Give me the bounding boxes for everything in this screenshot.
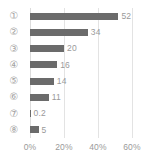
bar-value-label: 52 [121, 12, 131, 21]
y-axis-label: ④ [0, 57, 28, 73]
x-axis-tick-label: 0% [24, 143, 37, 152]
bar-row: 14 [30, 73, 132, 89]
bar [30, 45, 64, 52]
bar-value-label: 0.2 [34, 109, 46, 118]
bar [30, 29, 88, 36]
bar-row: 52 [30, 8, 132, 24]
bar-row: 20 [30, 41, 132, 57]
bar-row: 16 [30, 57, 132, 73]
y-axis-label: ⑤ [0, 73, 28, 89]
bar-value-label: 11 [52, 93, 61, 102]
bar-value-label: 20 [67, 44, 77, 53]
bar [30, 13, 118, 20]
bar-value-label: 5 [42, 126, 47, 135]
bar [30, 94, 49, 101]
horizontal-bar-chart: ①②③④⑤⑥⑦⑧ 5234201614110.25 0%20%40%60% [0, 0, 146, 164]
bar [30, 61, 57, 68]
x-axis-tick-label: 40% [89, 143, 107, 152]
bar-row: 34 [30, 24, 132, 40]
bar [30, 126, 39, 133]
bar-rows: 5234201614110.25 [30, 8, 132, 138]
bar [30, 110, 31, 117]
y-axis-label: ① [0, 8, 28, 24]
bar-value-label: 34 [91, 28, 101, 37]
bar-value-label: 14 [57, 77, 67, 86]
y-axis-label: ⑥ [0, 89, 28, 105]
gridline-60% [132, 8, 133, 138]
bar-row: 0.2 [30, 106, 132, 122]
y-axis-label: ⑧ [0, 122, 28, 138]
y-axis-labels: ①②③④⑤⑥⑦⑧ [0, 8, 28, 138]
bar [30, 78, 54, 85]
y-axis-label: ② [0, 24, 28, 40]
y-axis-label: ⑦ [0, 106, 28, 122]
x-axis-ticks: 0%20%40%60% [30, 143, 132, 157]
x-axis-tick-label: 20% [55, 143, 73, 152]
x-axis-tick-label: 60% [123, 143, 141, 152]
bar-row: 5 [30, 122, 132, 138]
plot-area: 5234201614110.25 [30, 8, 132, 138]
bar-row: 11 [30, 89, 132, 105]
bar-value-label: 16 [60, 61, 70, 70]
y-axis-label: ③ [0, 41, 28, 57]
